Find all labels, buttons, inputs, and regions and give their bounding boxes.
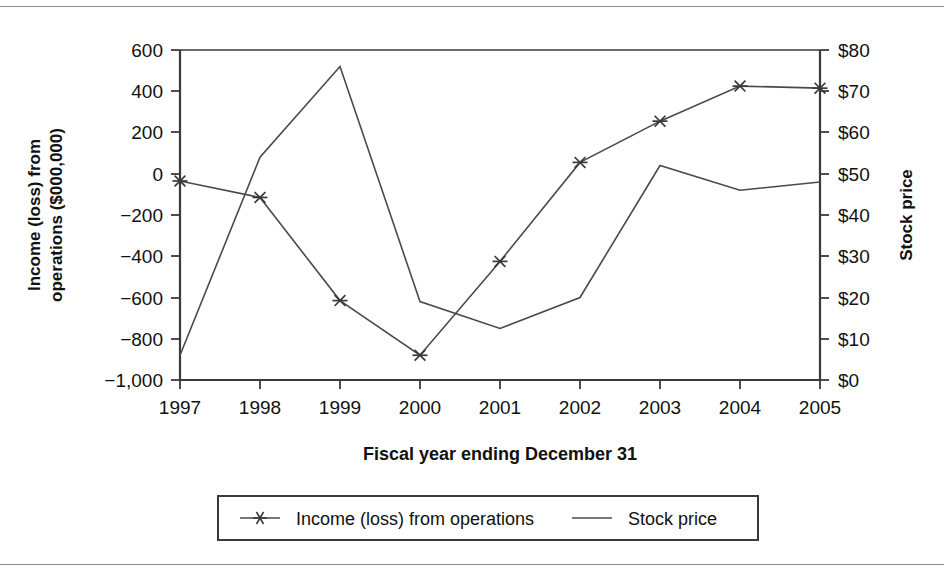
right-tick-label: $30: [838, 246, 870, 267]
right-tick-label: $20: [838, 288, 870, 309]
left-tick-label: −200: [120, 205, 163, 226]
left-tick-label: 0: [152, 164, 163, 185]
series-stock-price: [180, 67, 820, 356]
left-tick-labels: 600 400 200 0 −200 −400 −600 −800 −1,000: [104, 40, 163, 391]
left-tick-label: −400: [120, 246, 163, 267]
data-point-marker: [253, 192, 268, 203]
data-point-marker: [733, 81, 748, 92]
x-tick-label: 2005: [799, 397, 841, 418]
data-point-marker: [653, 116, 668, 127]
left-axis-title-line1: Income (loss) from: [25, 139, 44, 291]
data-point-marker: [493, 256, 508, 267]
left-tick-label: 400: [131, 81, 163, 102]
legend: Income (loss) from operations Stock pric…: [218, 496, 758, 540]
x-tick-label: 2004: [719, 397, 762, 418]
left-tick-label: 200: [131, 122, 163, 143]
x-tick-label: 2000: [399, 397, 441, 418]
plot-frame: [180, 50, 820, 380]
x-tick-labels: 199719981999200020012002200320042005: [159, 397, 841, 418]
series-income-from-operations: [173, 81, 828, 361]
left-axis-title-line2: operations ($000,000): [47, 128, 66, 302]
x-tick-label: 2002: [559, 397, 601, 418]
legend-label-income: Income (loss) from operations: [296, 509, 534, 529]
right-tick-label: $50: [838, 164, 870, 185]
data-point-marker: [573, 157, 588, 168]
right-tick-label: $70: [838, 81, 870, 102]
left-tick-label: −600: [120, 288, 163, 309]
x-tick-label: 1998: [239, 397, 281, 418]
legend-label-stock: Stock price: [628, 509, 717, 529]
x-tick-label: 1997: [159, 397, 201, 418]
right-tick-marks: [820, 50, 829, 380]
left-tick-marks: [171, 50, 180, 380]
x-axis-title: Fiscal year ending December 31: [363, 444, 637, 464]
left-tick-label: 600: [131, 40, 163, 61]
x-tick-marks: [180, 380, 820, 389]
right-tick-label: $0: [838, 370, 859, 391]
x-tick-label: 1999: [319, 397, 361, 418]
right-axis-title: Stock price: [897, 169, 916, 261]
x-tick-label: 2001: [479, 397, 521, 418]
x-tick-label: 2003: [639, 397, 681, 418]
right-tick-label: $60: [838, 122, 870, 143]
right-tick-label: $10: [838, 329, 870, 350]
left-axis-title: Income (loss) from operations ($000,000): [25, 128, 66, 302]
right-tick-label: $80: [838, 40, 870, 61]
left-tick-label: −800: [120, 329, 163, 350]
chart-figure: Income (loss) from operations ($000,000)…: [0, 0, 944, 572]
series-line: [180, 67, 820, 356]
right-tick-labels: $80 $70 $60 $50 $40 $30 $20 $10 $0: [838, 40, 870, 391]
series-line: [180, 86, 820, 355]
right-tick-label: $40: [838, 205, 870, 226]
left-tick-label: −1,000: [104, 370, 163, 391]
